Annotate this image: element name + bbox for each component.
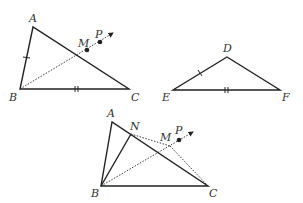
label-b-bottom: B (90, 187, 99, 200)
triangle-def (173, 57, 280, 90)
label-n-bottom: N (129, 120, 140, 133)
triangle-abc-top (20, 27, 129, 89)
point-p-bottom (177, 138, 182, 143)
label-m-top: M (77, 37, 90, 50)
label-c-bottom: C (209, 187, 218, 200)
figure-top-left-triangle: A M P B C (8, 12, 140, 104)
figure-right-triangle: D E F (161, 42, 290, 104)
label-f: F (281, 91, 290, 104)
figure-bottom-triangle: A N M P B C (90, 107, 218, 200)
label-a-top: A (28, 12, 37, 25)
label-c-top: C (131, 91, 140, 104)
label-m-bottom: M (159, 131, 172, 144)
segment-mc-dotted (170, 146, 208, 186)
label-e: E (161, 91, 170, 104)
label-b-top: B (8, 91, 17, 104)
geometry-diagram: A M P B C D E F A N M P B C (0, 0, 303, 203)
label-p-bottom: P (174, 124, 183, 137)
tick-ab-single (23, 57, 30, 58)
label-a-bottom: A (106, 107, 115, 120)
label-p-top: P (94, 28, 103, 41)
label-d: D (222, 42, 232, 55)
